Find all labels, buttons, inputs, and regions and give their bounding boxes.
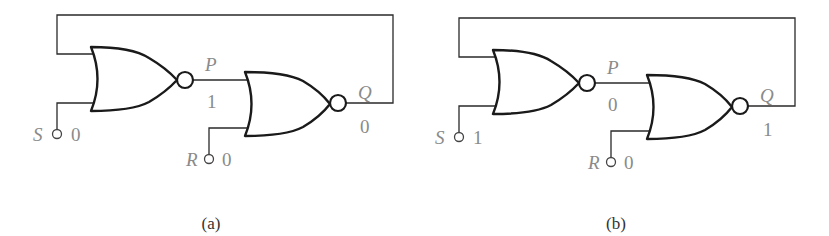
- label-r: R: [587, 152, 600, 173]
- latch-circuit-a: [53, 15, 394, 164]
- label-p: P: [204, 54, 217, 75]
- label-s: S: [33, 124, 43, 145]
- value-q: 0: [360, 116, 370, 137]
- panel-b: P 0 Q 1 S 1 R 0 (b): [435, 18, 795, 233]
- sr-latch-diagram: P 1 Q 0 S 0 R 0 (a) P 0 Q 1 S 1 R 0 (b): [0, 0, 829, 236]
- label-q: Q: [760, 85, 774, 106]
- caption-b: (b): [606, 214, 626, 233]
- label-q: Q: [358, 82, 372, 103]
- value-r: 0: [624, 152, 634, 173]
- value-p: 0: [608, 94, 618, 115]
- value-r: 0: [222, 149, 232, 170]
- panel-a: P 1 Q 0 S 0 R 0 (a): [33, 15, 393, 233]
- label-p: P: [606, 57, 619, 78]
- label-s: S: [435, 127, 445, 148]
- latch-circuit-b: [455, 18, 796, 167]
- value-q: 1: [763, 119, 773, 140]
- value-s: 0: [71, 124, 81, 145]
- caption-a: (a): [202, 214, 221, 233]
- value-p: 1: [207, 91, 217, 112]
- value-s: 1: [473, 127, 483, 148]
- label-r: R: [185, 149, 198, 170]
